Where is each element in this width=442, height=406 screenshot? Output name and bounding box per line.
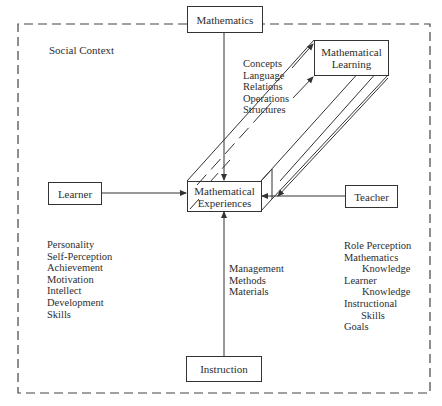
mathematics-node-label: Mathematics [197, 14, 254, 26]
learner-node-label: Learner [58, 188, 92, 200]
instruction-node-label: Instruction [200, 363, 248, 375]
list-item: Materials [229, 286, 284, 298]
instruction-aspects-list: Management Methods Materials [229, 263, 284, 298]
list-item: Management [229, 263, 284, 275]
list-item: Language [243, 70, 289, 82]
mathematical-learning-node: Mathematical Learning [314, 40, 389, 76]
return-arrow [278, 78, 388, 196]
list-item: Role Perception [344, 240, 411, 252]
mathematics-node: Mathematics [187, 6, 263, 33]
list-item: Achievement [47, 262, 112, 274]
list-item: Skills [344, 310, 411, 322]
learner-node: Learner [48, 182, 102, 205]
list-item: Development [47, 297, 112, 309]
list-item: Learner [344, 275, 411, 287]
learner-attributes-list: Personality Self-Perception Achievement … [47, 239, 112, 320]
mathematical-experiences-node: Mathematical Experiences [187, 181, 262, 212]
list-item: Relations [243, 81, 289, 93]
list-item: Motivation [47, 274, 112, 286]
list-item: Methods [229, 275, 284, 287]
experiences-label-line1: Mathematical [194, 185, 254, 197]
learning-label-line2: Learning [332, 58, 372, 70]
list-item: Self-Perception [47, 251, 112, 263]
list-item: Knowledge [344, 286, 411, 298]
list-item: Structures [243, 104, 289, 116]
list-item: Mathematics [344, 252, 411, 264]
experiences-label-line2: Experiences [198, 197, 252, 209]
list-item: Personality [47, 239, 112, 251]
teacher-attributes-list: Role Perception Mathematics Knowledge Le… [344, 240, 411, 333]
teacher-node: Teacher [345, 185, 398, 208]
list-item: Intellect [47, 285, 112, 297]
mathematics-aspects-list: Concepts Language Relations Operations S… [243, 58, 289, 116]
social-context-label: Social Context [49, 45, 114, 57]
list-item: Operations [243, 93, 289, 105]
list-item: Goals [344, 321, 411, 333]
learning-label-line1: Mathematical [321, 46, 381, 58]
list-item: Skills [47, 309, 112, 321]
list-item: Knowledge [344, 263, 411, 275]
teacher-node-label: Teacher [354, 191, 389, 203]
instruction-node: Instruction [186, 356, 262, 382]
list-item: Concepts [243, 58, 289, 70]
list-item: Instructional [344, 298, 411, 310]
